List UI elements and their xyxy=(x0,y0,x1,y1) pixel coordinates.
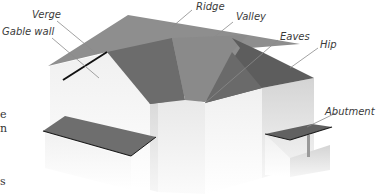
label-valley: Valley xyxy=(236,11,267,22)
label-hip: Hip xyxy=(320,39,337,50)
label-eaves: Eaves xyxy=(280,31,310,42)
cropped-text-fragment: s xyxy=(0,175,6,188)
cropped-text-fragment: n xyxy=(0,122,7,135)
label-abutment: Abutment xyxy=(324,106,376,117)
label-ridge: Ridge xyxy=(196,1,225,12)
label-gable-wall: Gable wall xyxy=(2,26,54,37)
cropped-text-fragment: e xyxy=(0,108,7,121)
label-verge: Verge xyxy=(32,9,61,20)
roof-anatomy-diagram: e n s xyxy=(0,0,376,194)
